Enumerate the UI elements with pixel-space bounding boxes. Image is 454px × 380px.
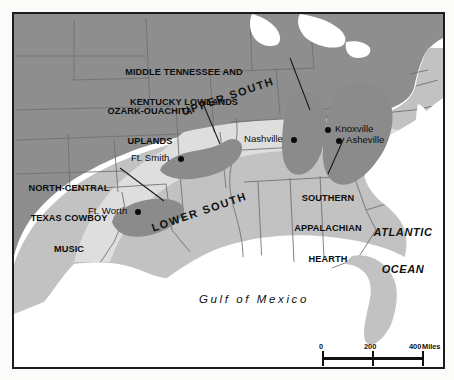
scale-km-tick-1: 200 (348, 366, 360, 369)
scale-km-tick-0: 0 (319, 366, 323, 369)
water-label-line: OCEAN (368, 263, 438, 275)
scale-km-tick-2: 400 (380, 366, 392, 369)
region-label-line: UPLANDS (90, 136, 210, 146)
city-label-asheville: Asheville (346, 135, 384, 146)
scale-tick-mid (372, 351, 374, 366)
city-label-nashville: Nashville (244, 134, 283, 145)
scale-miles-unit: Miles (422, 342, 440, 351)
city-dot-ft-worth (135, 209, 141, 215)
region-label-southern-appalachian-hearth: SOUTHERN APPALACHIAN HEARTH (280, 172, 376, 285)
city-label-ft-smith: Ft. Smith (131, 153, 169, 164)
region-label-line: HEARTH (280, 254, 376, 264)
region-label-line: APPALACHIAN (280, 223, 376, 233)
scale-miles-tick-1: 200 (364, 342, 376, 351)
region-label-line: MIDDLE TENNESSEE AND (108, 67, 260, 77)
scale-km-unit: Kilometers (393, 366, 431, 369)
scale-miles-tick-0: 0 (319, 342, 323, 351)
city-dot-knoxville (325, 127, 331, 133)
map-page: MIDDLE TENNESSEE AND KENTUCKY LOWLANDS O… (0, 0, 454, 380)
water-label-atlantic-ocean: ATLANTIC OCEAN (368, 201, 438, 300)
city-label-ft-worth: Ft. Worth (88, 206, 127, 217)
water-label-gulf-of-mexico: Gulf of Mexico (199, 293, 309, 306)
scale-tick-0 (322, 351, 324, 366)
map-frame: MIDDLE TENNESSEE AND KENTUCKY LOWLANDS O… (12, 12, 445, 369)
region-label-north-central-texas-cowboy-music: NORTH-CENTRAL TEXAS COWBOY MUSIC (16, 162, 122, 275)
city-dot-nashville (291, 137, 297, 143)
region-label-line: NORTH-CENTRAL (16, 183, 122, 193)
scale-miles-tick-2: 400 (409, 342, 421, 351)
city-dot-asheville (336, 138, 342, 144)
scale-tick-end (422, 351, 424, 366)
water-label-line: ATLANTIC (368, 226, 438, 238)
region-label-line: SOUTHERN (280, 193, 376, 203)
region-label-line: MUSIC (16, 244, 122, 254)
city-dot-ft-smith (178, 156, 184, 162)
